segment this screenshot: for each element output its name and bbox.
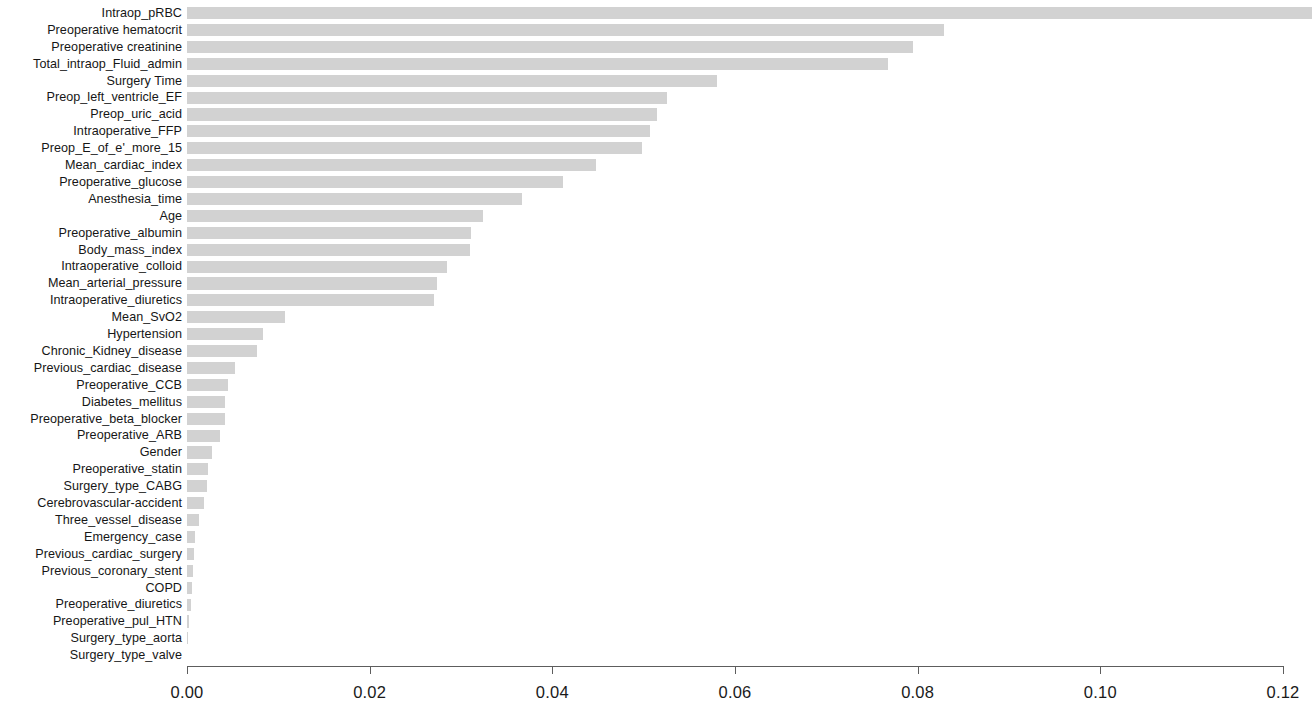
bar-category-label: Preoperative hematocrit (0, 24, 182, 37)
bar-row: Surgery Time (0, 73, 1315, 90)
x-axis-tick (918, 666, 919, 674)
bar-row: Intraop_pRBC (0, 5, 1315, 22)
bar-track (187, 261, 447, 273)
bar-fill (187, 531, 195, 543)
bar-track (187, 599, 191, 611)
bar-row: Preoperative_CCB (0, 377, 1315, 394)
variable-importance-chart: Intraop_pRBCPreoperative hematocritPreop… (0, 0, 1315, 707)
bar-track (187, 7, 1312, 19)
bar-track (187, 41, 913, 53)
x-axis-tick-label: 0.04 (512, 683, 592, 702)
bar-fill (187, 108, 657, 120)
bar-row: Preoperative_glucose (0, 174, 1315, 191)
bar-fill (187, 75, 717, 87)
x-axis-tick-label: 0.08 (878, 683, 958, 702)
bar-fill (187, 362, 235, 374)
bar-track (187, 92, 667, 104)
bar-category-label: Preop_left_ventricle_EF (0, 91, 182, 104)
bar-fill (187, 244, 470, 256)
bar-track (187, 463, 208, 475)
bar-track (187, 531, 195, 543)
x-axis-tick (1283, 666, 1284, 674)
bar-track (187, 514, 199, 526)
bar-track (187, 294, 434, 306)
bar-category-label: Body_mass_index (0, 244, 182, 257)
bar-track (187, 227, 471, 239)
bar-category-label: Cerebrovascular-accident (0, 497, 182, 510)
bar-row: Previous_cardiac_surgery (0, 546, 1315, 563)
bar-row: Cerebrovascular-accident (0, 495, 1315, 512)
bar-track (187, 142, 642, 154)
bar-fill (187, 227, 471, 239)
bar-category-label: Surgery_type_aorta (0, 632, 182, 645)
bar-category-label: COPD (0, 582, 182, 595)
bar-row: Preop_left_ventricle_EF (0, 90, 1315, 107)
bar-category-label: Preoperative creatinine (0, 41, 182, 54)
x-axis-tick-label: 0.06 (695, 683, 775, 702)
bar-category-label: Preoperative_glucose (0, 176, 182, 189)
bar-category-label: Diabetes_mellitus (0, 396, 182, 409)
bar-fill (187, 565, 193, 577)
bar-track (187, 125, 650, 137)
bar-track (187, 480, 207, 492)
bar-category-label: Intraoperative_colloid (0, 260, 182, 273)
bar-fill (187, 446, 212, 458)
bar-row: Preop_E_of_e'_more_15 (0, 140, 1315, 157)
bar-fill (187, 328, 263, 340)
bar-fill (187, 277, 437, 289)
bar-fill (187, 514, 199, 526)
bar-category-label: Hypertension (0, 328, 182, 341)
bar-row: Mean_arterial_pressure (0, 275, 1315, 292)
bar-row: Preoperative_diuretics (0, 597, 1315, 614)
bar-row: Previous_cardiac_disease (0, 360, 1315, 377)
bar-track (187, 75, 717, 87)
x-axis-tick (735, 666, 736, 674)
bar-category-label: Preoperative_albumin (0, 227, 182, 240)
bar-fill (187, 615, 189, 627)
bar-row: Preoperative_statin (0, 461, 1315, 478)
bar-fill (187, 261, 447, 273)
bar-fill (187, 58, 888, 70)
bar-fill (187, 396, 225, 408)
bar-track (187, 58, 888, 70)
bar-fill (187, 497, 204, 509)
bar-fill (187, 311, 285, 323)
bar-row: Emergency_case (0, 529, 1315, 546)
bar-category-label: Anesthesia_time (0, 193, 182, 206)
bar-row: Chronic_Kidney_disease (0, 343, 1315, 360)
bar-category-label: Preop_E_of_e'_more_15 (0, 142, 182, 155)
bar-track (187, 430, 220, 442)
bar-track (187, 362, 235, 374)
bar-category-label: Preoperative_CCB (0, 379, 182, 392)
bar-fill (187, 632, 188, 644)
bar-track (187, 277, 437, 289)
bar-fill (187, 345, 257, 357)
bar-row: COPD (0, 580, 1315, 597)
bar-fill (187, 41, 913, 53)
bar-row: Preoperative_beta_blocker (0, 411, 1315, 428)
x-axis-tick (552, 666, 553, 674)
bar-track (187, 108, 657, 120)
bar-row: Anesthesia_time (0, 191, 1315, 208)
bar-category-label: Preoperative_pul_HTN (0, 615, 182, 628)
bar-category-label: Mean_SvO2 (0, 311, 182, 324)
bar-track (187, 210, 483, 222)
x-axis-tick (1100, 666, 1101, 674)
bar-fill (187, 294, 434, 306)
bar-fill (187, 463, 208, 475)
bar-track (187, 193, 522, 205)
bar-track (187, 345, 257, 357)
bar-track (187, 311, 285, 323)
x-axis-tick-label: 0.02 (330, 683, 410, 702)
bar-category-label: Gender (0, 446, 182, 459)
bar-category-label: Previous_coronary_stent (0, 565, 182, 578)
bar-category-label: Preoperative_statin (0, 463, 182, 476)
bar-row: Intraoperative_colloid (0, 259, 1315, 276)
bar-category-label: Mean_cardiac_index (0, 159, 182, 172)
bar-row: Gender (0, 444, 1315, 461)
x-axis-tick (187, 666, 188, 674)
bar-row: Age (0, 208, 1315, 225)
bar-category-label: Preoperative_ARB (0, 429, 182, 442)
bar-category-label: Age (0, 210, 182, 223)
bar-category-label: Intraoperative_diuretics (0, 294, 182, 307)
